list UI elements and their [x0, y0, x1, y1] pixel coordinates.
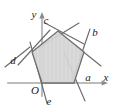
origin-label: O	[31, 84, 39, 96]
axis-label-x: x	[103, 71, 109, 83]
line-label-d: d	[10, 54, 16, 66]
line-label-c: c	[44, 14, 49, 26]
axis-label-y: y	[31, 8, 37, 20]
figure-canvas: y x O a b c d e	[0, 0, 116, 109]
line-label-e: e	[47, 95, 52, 107]
line-label-b: b	[92, 26, 98, 38]
geometry-figure: y x O a b c d e	[0, 0, 116, 109]
line-label-a: a	[85, 71, 91, 83]
